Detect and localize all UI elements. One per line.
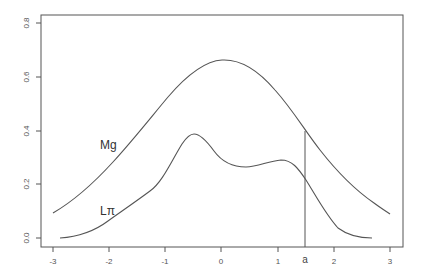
density-chart: 0.0 0.2 0.4 0.6 0.8 -3 -2 -1 0 1 2 3 Mg … — [0, 0, 424, 279]
y-tick-label: 0.0 — [22, 232, 31, 244]
x-tick-label: 2 — [332, 257, 337, 266]
y-tick-label: 0.2 — [22, 178, 31, 190]
x-axis: -3 -2 -1 0 1 2 3 — [49, 247, 392, 266]
plot-frame — [41, 15, 403, 247]
a-label: a — [302, 254, 308, 265]
x-tick-label: -1 — [161, 257, 169, 266]
x-tick-label: 3 — [388, 257, 393, 266]
y-tick-label: 0.8 — [22, 17, 31, 29]
x-tick-label: -2 — [105, 257, 113, 266]
mg-curve — [53, 60, 390, 214]
mg-label: Mg — [100, 138, 117, 152]
x-tick-label: 1 — [276, 257, 281, 266]
lpi-label: Lπ — [100, 204, 115, 218]
y-axis: 0.0 0.2 0.4 0.6 0.8 — [22, 17, 41, 244]
x-tick-label: 0 — [219, 257, 224, 266]
x-tick-label: -3 — [49, 257, 57, 266]
y-tick-label: 0.4 — [22, 125, 31, 137]
y-tick-label: 0.6 — [22, 71, 31, 83]
